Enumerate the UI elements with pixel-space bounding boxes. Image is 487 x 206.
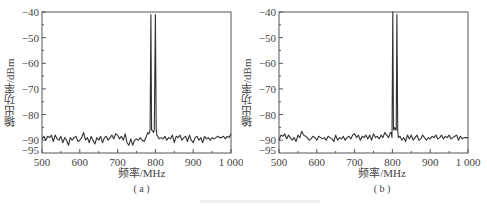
plot-area: −40−50−60−70−80−90−955006007008009001 00… (237, 0, 487, 170)
faint-figure-caption (200, 200, 320, 203)
spectrum-line (279, 12, 468, 142)
y-tick-label: −95 (259, 144, 277, 156)
chart-panel-b: 输出功率/dBm −40−50−60−70−80−90−955006007008… (237, 0, 480, 206)
x-axis-label: 频率/MHz (257, 164, 487, 180)
y-tick-label: −80 (259, 109, 277, 121)
y-tick-label: −40 (22, 6, 40, 18)
chart-panel-a: 输出功率/dBm −40−50−60−70−80−90−955006007008… (0, 0, 243, 206)
panel-caption: ( b ) (257, 183, 487, 194)
y-tick-label: −40 (259, 6, 277, 18)
y-tick-label: −70 (259, 83, 277, 95)
y-tick-label: −50 (259, 32, 277, 44)
y-tick-label: −80 (22, 109, 40, 121)
plot-frame (279, 12, 468, 153)
plot-area: −40−50−60−70−80−90−955006007008009001 00… (0, 0, 243, 170)
panel-caption: ( a ) (20, 183, 263, 194)
y-tick-label: −60 (259, 57, 277, 69)
y-tick-label: −95 (22, 144, 40, 156)
y-tick-label: −50 (22, 32, 40, 44)
y-tick-label: −70 (22, 83, 40, 95)
spectrum-line (42, 15, 231, 146)
plot-frame (42, 12, 231, 153)
x-axis-label: 频率/MHz (20, 164, 263, 180)
y-tick-label: −60 (22, 57, 40, 69)
